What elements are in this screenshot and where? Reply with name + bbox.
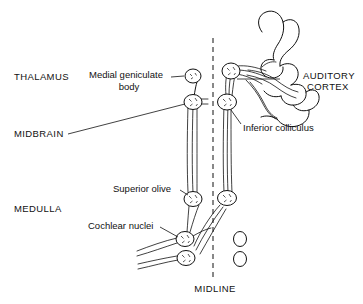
label-midbrain: MIDBRAIN <box>14 128 64 139</box>
auditory-pathway-figure: THALAMUS MIDBRAIN MEDULLA MIDLINE AUDITO… <box>0 0 363 304</box>
right-ascending-tract <box>223 104 232 193</box>
label-medial-geniculate-body-line2: body <box>89 81 169 92</box>
leader-medial-geniculate <box>171 76 184 77</box>
leader-midbrain <box>68 104 185 134</box>
dorsal-cochlear-nucleus <box>176 232 194 247</box>
left-inferior-colliculus-nucleus <box>184 95 202 110</box>
auditory-cortex-outline <box>246 11 319 126</box>
left-ascending-tract <box>187 106 197 193</box>
right-medial-geniculate-body-nucleus <box>222 63 240 79</box>
leader-inferior-colliculus <box>231 110 241 124</box>
label-medial-geniculate-body-line1: Medial geniculate <box>89 69 163 80</box>
label-cochlear-nuclei: Cochlear nuclei <box>88 220 153 231</box>
label-auditory-cortex-line1: AUDITORY <box>303 70 355 81</box>
ventral-cochlear-nucleus <box>177 251 195 266</box>
contralateral-dorsal-cochlear-nucleus <box>234 232 247 247</box>
label-superior-olive: Superior olive <box>113 183 171 194</box>
right-superior-olive-nucleus <box>218 191 237 206</box>
thalamocortical-radiation <box>236 66 266 84</box>
contralateral-ventral-cochlear-nucleus <box>234 252 247 267</box>
label-midline: MIDLINE <box>181 283 249 294</box>
pathway-drawing <box>0 0 363 304</box>
leader-cochlear-nuclei <box>160 227 178 237</box>
label-medulla: MEDULLA <box>14 203 62 214</box>
medial-geniculate-body-nucleus <box>185 69 201 83</box>
right-inferior-colliculus-nucleus <box>218 94 237 110</box>
label-inferior-colliculus: Inferior colliculus <box>243 122 314 133</box>
label-thalamus: THALAMUS <box>14 71 69 82</box>
leader-superior-olive <box>180 190 188 195</box>
label-auditory-cortex-line2: CORTEX <box>307 81 349 92</box>
